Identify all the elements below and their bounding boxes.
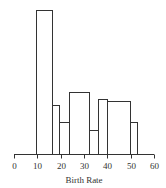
histogram-bar-5 — [90, 131, 99, 155]
histogram-bar-7 — [108, 102, 131, 155]
histogram-bar-6 — [99, 100, 108, 155]
histogram-bar-2 — [53, 106, 60, 155]
histogram-bar-4 — [70, 93, 90, 155]
histogram-bars — [37, 11, 138, 155]
histogram-bar-3 — [60, 123, 70, 155]
x-tick-label: 20 — [57, 161, 67, 171]
histogram-bar-1 — [37, 11, 53, 155]
x-tick-label: 10 — [33, 161, 43, 171]
x-axis-ticks: 0102030405060 — [12, 155, 159, 171]
histogram-bar-8 — [131, 123, 138, 155]
x-tick-label: 40 — [103, 161, 113, 171]
x-tick-label: 30 — [80, 161, 90, 171]
x-tick-label: 0 — [12, 161, 17, 171]
x-axis-title: Birth Rate — [65, 175, 102, 185]
x-tick-label: 60 — [150, 161, 160, 171]
x-tick-label: 50 — [127, 161, 137, 171]
histogram-chart: 0102030405060 Birth Rate — [0, 0, 166, 188]
